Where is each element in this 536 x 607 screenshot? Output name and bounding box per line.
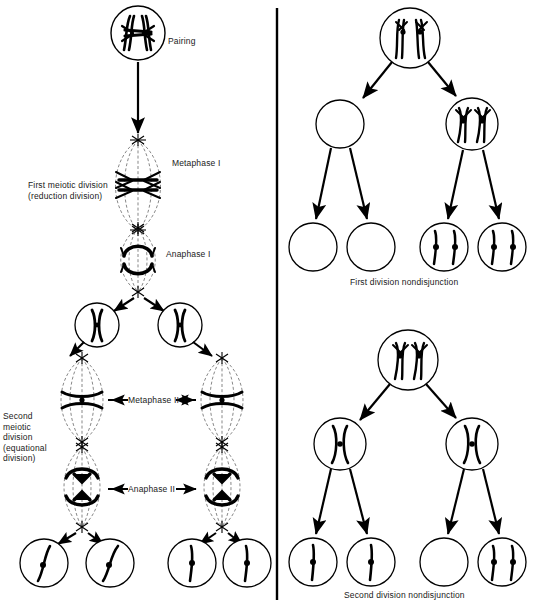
gamete-4 [223,539,271,587]
diagram-canvas [0,0,536,607]
gamete-empty-2 [347,223,395,271]
caption-first-division-nondisjunction: First division nondisjunction [350,277,458,288]
cell-parent-first-nd [380,8,440,68]
cell-parent-second-nd [378,330,438,390]
arrow-daughter-right-to-metaphase-ii [193,342,212,356]
arrow-left-to-gamete-1 [316,148,331,219]
gamete-normal-2 [347,538,395,586]
stage-metaphase-i [116,134,161,236]
arrow-parent-to-right-2 [426,384,456,418]
arrow-left-to-gamete-2 [350,148,367,219]
cell-secondary-right-four [446,98,498,150]
stage-pairing [111,6,165,60]
stage-anaphase-ii-right [204,441,240,533]
label-second-meiotic-division: Second meiotic division (equational divi… [3,411,47,464]
caption-second-division-nondisjunction: Second division nondisjunction [344,590,465,601]
label-anaphase-ii: Anaphase II [128,484,175,495]
cell-secondary-left-second-nd [314,418,366,470]
arrow-parent-to-left-2 [360,384,390,420]
gamete-disomic-2 [478,223,526,271]
normal-meiosis-panel [20,6,271,587]
arrow-to-gamete-4-2 [483,469,499,534]
arrow-anaphase-i-to-daughter-right [144,298,164,311]
stage-metaphase-ii-right [201,352,243,448]
arrow-parent-to-right [428,62,456,96]
chromatids-separating-icon [66,469,98,505]
first-division-nondisjunction-panel [289,8,526,271]
cell-daughter-left [75,303,119,347]
arrow-right-to-gamete-3 [448,150,463,219]
stage-anaphase-i [121,222,156,298]
figure-root: Pairing Metaphase I Anaphase I First mei… [0,0,536,607]
cell-secondary-left-empty [316,100,364,148]
stage-metaphase-ii-left [61,352,103,448]
arrow-right-to-gamete-4 [483,150,499,219]
gamete-empty-1 [289,223,337,271]
gamete-nullisomic [420,538,468,586]
chromatids-separating-icon [206,469,238,505]
cell-daughter-right [158,303,202,347]
arrow-anaphase-i-to-daughter-left [114,298,134,311]
gamete-3 [168,539,216,587]
arrow-to-gamete-3-2 [448,469,464,534]
label-anaphase-i: Anaphase I [166,249,211,260]
label-first-meiotic-division: First meiotic division (reduction divisi… [28,180,108,201]
label-pairing: Pairing [168,36,196,47]
arrow-parent-to-left [363,62,392,98]
gamete-1 [20,539,68,587]
gamete-disomic-3 [478,538,526,586]
second-division-nondisjunction-panel [289,330,526,586]
label-metaphase-i: Metaphase I [172,158,220,169]
arrow-to-gamete-1-2 [316,469,331,534]
centriole-star-top [130,134,146,146]
gamete-2 [86,539,134,587]
label-metaphase-ii: Metaphase II [128,395,179,406]
stage-anaphase-ii-left [64,441,100,533]
cell-secondary-right-second-nd [446,418,498,470]
gamete-normal-1 [289,538,337,586]
arrow-to-gamete-1 [58,533,76,544]
gamete-disomic-1 [420,223,468,271]
arrow-to-gamete-2-2 [350,469,367,534]
